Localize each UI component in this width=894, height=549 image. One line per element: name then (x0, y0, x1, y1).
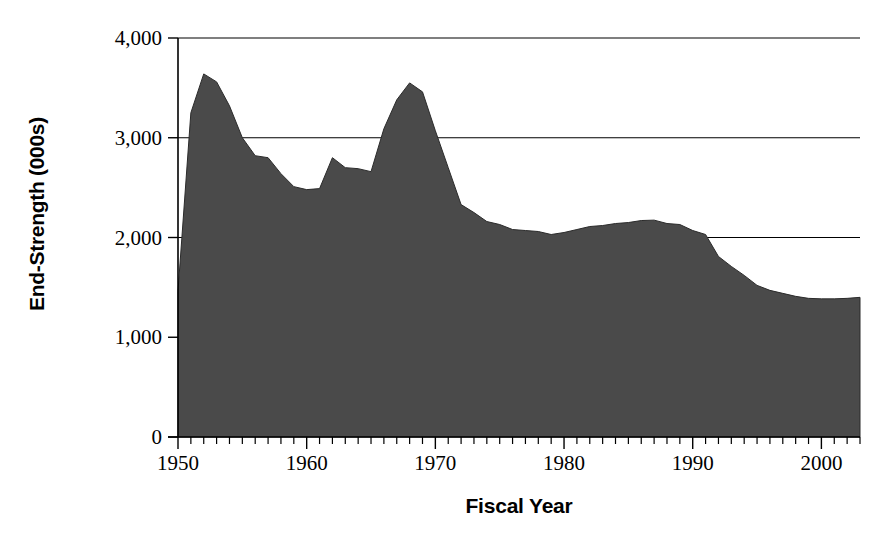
area-chart-plot: 01,0002,0003,0004,000 195019601970198019… (0, 0, 894, 549)
y-tick-label-1000: 1,000 (115, 325, 162, 349)
y-tick-label-0: 0 (152, 425, 163, 449)
x-tick-label-1950: 1950 (157, 451, 199, 475)
y-tick-label-3000: 3,000 (115, 126, 162, 150)
area-series (178, 74, 860, 437)
y-tick-labels: 01,0002,0003,0004,000 (115, 26, 162, 449)
y-tick-label-4000: 4,000 (115, 26, 162, 50)
chart-container: End-Strength (000s) Fiscal Year 01,0002,… (0, 0, 894, 549)
x-tick-label-1980: 1980 (543, 451, 585, 475)
area-series-path (178, 74, 860, 437)
x-tick-label-1970: 1970 (414, 451, 456, 475)
y-tick-label-2000: 2,000 (115, 226, 162, 250)
x-tick-label-2000: 2000 (800, 451, 842, 475)
x-tick-labels: 195019601970198019902000 (157, 451, 842, 475)
x-tick-label-1960: 1960 (286, 451, 328, 475)
x-tick-label-1990: 1990 (672, 451, 714, 475)
